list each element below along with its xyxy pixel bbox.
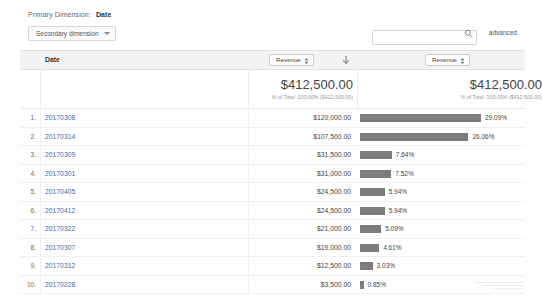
total-secondary: $412,500.00 % of Total: 100.00% ($412,50… <box>357 77 542 100</box>
row-revenue-value: $3,500.00 <box>248 281 351 288</box>
total-primary: $412,500.00 % of Total: 100.00% ($412,50… <box>248 77 353 100</box>
row-percent-label: 7.64% <box>396 151 414 159</box>
column-divider <box>40 220 41 238</box>
column-divider <box>40 276 41 294</box>
row-bar-cell: 3.03% <box>360 257 525 275</box>
row-percent-label: 5.09% <box>385 225 403 233</box>
table-row[interactable]: 2.20170314$107,500.0026.06% <box>20 128 525 147</box>
total-primary-amount: $412,500.00 <box>248 77 353 92</box>
row-revenue-value: $21,000.00 <box>248 225 351 232</box>
chevron-updown-icon <box>460 57 465 65</box>
row-bar <box>360 281 364 289</box>
row-bar-cell: 5.09% <box>360 220 525 238</box>
secondary-dimension-dropdown[interactable]: Secondary dimension <box>28 26 116 41</box>
row-percent-label: 5.94% <box>389 188 407 196</box>
table-body: 1.20170308$120,000.0029.09%2.20170314$10… <box>20 109 525 294</box>
row-revenue-value: $24,500.00 <box>248 188 351 195</box>
row-bar-cell: 4.61% <box>360 239 525 257</box>
row-bar <box>360 225 381 233</box>
row-revenue-value: $12,500.00 <box>248 262 351 269</box>
row-index: 4. <box>20 170 36 177</box>
row-percent-label: 4.61% <box>383 244 401 252</box>
search-icon[interactable] <box>464 29 473 38</box>
column-divider <box>40 202 41 220</box>
row-date-link[interactable]: 20170308 <box>45 114 75 121</box>
totals-row: $412,500.00 % of Total: 100.00% ($412,50… <box>20 70 525 109</box>
metric-select-primary-label: Revenue <box>276 56 301 63</box>
metric-select-primary[interactable]: Revenue <box>269 54 314 66</box>
advanced-link[interactable]: advanced <box>489 29 517 36</box>
column-divider <box>40 165 41 183</box>
row-bar <box>360 262 373 270</box>
sort-descending-arrow-icon[interactable] <box>341 55 351 65</box>
report-table: Date Revenue Revenue <box>20 50 525 294</box>
total-primary-subtext: % of Total: 100.00% ($412,500.00) <box>248 94 353 100</box>
row-percent-label: 29.09% <box>485 114 507 122</box>
table-row[interactable]: 6.20170412$24,500.005.94% <box>20 202 525 221</box>
row-index: 6. <box>20 207 36 214</box>
chevron-down-icon <box>104 32 110 35</box>
row-bar <box>360 114 481 122</box>
total-secondary-amount: $412,500.00 <box>357 77 542 92</box>
row-date-link[interactable]: 20170405 <box>45 188 75 195</box>
search-input[interactable] <box>372 30 477 45</box>
row-index: 9. <box>20 262 36 269</box>
search-box <box>372 26 477 41</box>
row-percent-label: 26.06% <box>472 133 494 141</box>
row-revenue-value: $120,000.00 <box>248 114 351 121</box>
row-revenue-value: $31,500.00 <box>248 151 351 158</box>
row-percent-label: 0.85% <box>368 281 386 289</box>
table-header-row: Date Revenue Revenue <box>20 50 525 70</box>
row-date-link[interactable]: 20170309 <box>45 151 75 158</box>
table-row[interactable]: 3.20170309$31,500.007.64% <box>20 146 525 165</box>
table-row[interactable]: 7.20170322$21,000.005.09% <box>20 220 525 239</box>
secondary-dimension-label: Secondary dimension <box>36 30 99 37</box>
row-bar-cell: 7.64% <box>360 146 525 164</box>
row-date-link[interactable]: 20170312 <box>45 262 75 269</box>
row-bar <box>360 207 385 215</box>
row-percent-label: 7.52% <box>395 170 413 178</box>
row-date-link[interactable]: 20170412 <box>45 207 75 214</box>
row-date-link[interactable]: 20170228 <box>45 281 75 288</box>
row-date-link[interactable]: 20170307 <box>45 244 75 251</box>
row-percent-label: 5.94% <box>389 207 407 215</box>
metric-select-secondary-label: Revenue <box>432 56 457 63</box>
column-header-date[interactable]: Date <box>45 56 60 63</box>
row-index: 3. <box>20 151 36 158</box>
row-bar-cell: 5.94% <box>360 183 525 201</box>
table-row[interactable]: 4.20170301$31,000.007.52% <box>20 165 525 184</box>
row-bar <box>360 188 385 196</box>
total-secondary-subtext: % of Total: 100.00% ($412,500.00) <box>357 94 542 100</box>
row-bar-cell: 5.94% <box>360 202 525 220</box>
row-revenue-value: $107,500.00 <box>248 133 351 140</box>
row-date-link[interactable]: 20170301 <box>45 170 75 177</box>
footer-watermark <box>475 282 523 289</box>
table-controls: Secondary dimension advanced <box>28 26 525 42</box>
column-divider <box>40 183 41 201</box>
row-index: 2. <box>20 133 36 140</box>
chevron-updown-icon <box>304 57 309 65</box>
row-revenue-value: $24,500.00 <box>248 207 351 214</box>
row-date-link[interactable]: 20170314 <box>45 133 75 140</box>
column-divider <box>40 146 41 164</box>
column-divider <box>40 239 41 257</box>
table-row[interactable]: 9.20170312$12,500.003.03% <box>20 257 525 276</box>
table-row[interactable]: 10.20170228$3,500.000.85% <box>20 276 525 295</box>
row-index: 1. <box>20 114 36 121</box>
row-bar <box>360 170 391 178</box>
primary-dimension-value[interactable]: Date <box>96 11 112 18</box>
table-row[interactable]: 5.20170405$24,500.005.94% <box>20 183 525 202</box>
table-row[interactable]: 8.20170307$19,000.004.61% <box>20 239 525 258</box>
table-row[interactable]: 1.20170308$120,000.0029.09% <box>20 109 525 128</box>
metric-select-secondary[interactable]: Revenue <box>425 54 470 66</box>
column-divider <box>40 257 41 275</box>
column-divider <box>40 70 41 108</box>
row-index: 7. <box>20 225 36 232</box>
column-divider <box>40 128 41 146</box>
row-bar-cell: 29.09% <box>360 109 525 127</box>
primary-dimension-label: Primary Dimension: <box>28 11 91 18</box>
row-bar <box>360 244 379 252</box>
row-date-link[interactable]: 20170322 <box>45 225 75 232</box>
primary-dimension: Primary Dimension:Date <box>28 11 111 18</box>
